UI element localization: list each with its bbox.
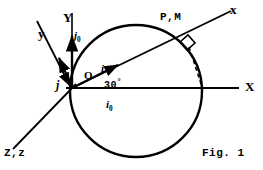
- figure-caption: Fig. 1: [202, 148, 245, 159]
- axis-label-X: X: [245, 80, 254, 93]
- angle-label: 30°: [104, 79, 122, 91]
- point-label-PM: P,M: [160, 12, 181, 23]
- figure-diagram: Y X x y Z,z O P,M i j j0 i0 30° Fig. 1: [0, 0, 263, 170]
- unit-vector-label-i: i: [101, 63, 104, 74]
- axis-Zz-line: [13, 84, 76, 149]
- unit-vector-label-i0: i0: [106, 99, 113, 113]
- axis-label-y-small: y: [38, 27, 45, 40]
- axis-label-Y: Y: [63, 11, 72, 24]
- angle-degree-symbol: °: [117, 78, 122, 86]
- axis-label-x-small: x: [230, 3, 237, 16]
- unit-vector-j-arrow: [59, 58, 72, 87]
- unit-vector-j0-subscript: 0: [77, 36, 81, 44]
- unit-vector-label-j: j: [56, 79, 59, 91]
- axis-label-Zz: Z,z: [4, 148, 25, 159]
- unit-vector-label-j0: j0: [74, 30, 81, 44]
- unit-vector-i0-subscript: 0: [109, 105, 113, 113]
- angle-value: 30: [104, 80, 117, 91]
- origin-label: O: [84, 70, 93, 81]
